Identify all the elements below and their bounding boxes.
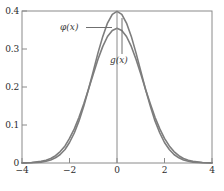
y-axis-ticks <box>22 11 27 163</box>
figure-caption <box>0 183 224 191</box>
y-tick-label-0.3: 0.3 <box>0 44 19 54</box>
x-tick-label-4: 4 <box>202 165 222 175</box>
y-tick-label-0.1: 0.1 <box>0 120 19 130</box>
plot-canvas <box>0 0 224 191</box>
g-curve-label: g(x) <box>110 55 128 65</box>
phi-curve-label: φ(x) <box>60 22 78 32</box>
x-tick-label--2: −2 <box>60 165 80 175</box>
figure-page: 0.4 0.3 0.2 0.1 0 −4 −2 0 2 4 φ(x) g(x) <box>0 0 224 191</box>
x-tick-label-0: 0 <box>107 165 127 175</box>
y-tick-label-0.2: 0.2 <box>0 82 19 92</box>
y-tick-label-0.4: 0.4 <box>0 6 19 16</box>
x-tick-label--4: −4 <box>12 165 32 175</box>
x-tick-label-2: 2 <box>155 165 175 175</box>
